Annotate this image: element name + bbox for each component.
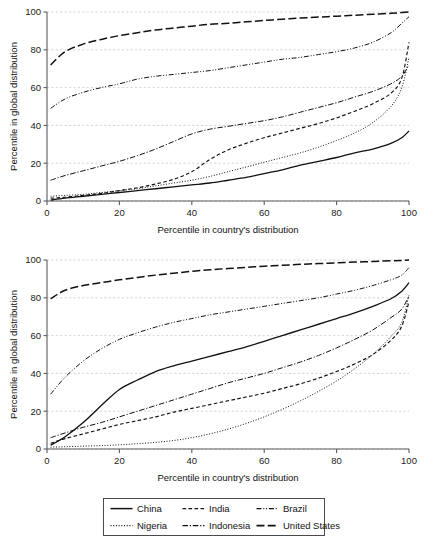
x-tick-label-0: 0 xyxy=(44,455,49,466)
y-tick-label-40: 40 xyxy=(30,120,41,131)
y-tick-label-0: 0 xyxy=(36,195,41,206)
series-line-india xyxy=(51,42,409,198)
y-tick-label-20: 20 xyxy=(30,158,41,169)
series-line-brazil xyxy=(51,268,409,395)
x-tick-label-100: 100 xyxy=(401,455,417,466)
legend-grid: ChinaIndiaBrazilNigeriaIndonesiaUnited S… xyxy=(104,499,324,535)
x-axis-title: Percentile in country's distribution xyxy=(157,472,298,483)
legend-item-indonesia[interactable]: Indonesia xyxy=(182,521,256,531)
chart-svg-top: 020406080100020406080100Percentile in co… xyxy=(0,0,424,248)
x-axis-title: Percentile in country's distribution xyxy=(157,224,298,235)
legend: ChinaIndiaBrazilNigeriaIndonesiaUnited S… xyxy=(0,496,424,547)
legend-label: China xyxy=(137,504,162,514)
y-tick-label-80: 80 xyxy=(30,44,41,55)
legend-label: Indonesia xyxy=(209,521,250,531)
legend-box: ChinaIndiaBrazilNigeriaIndonesiaUnited S… xyxy=(103,498,325,536)
legend-item-nigeria[interactable]: Nigeria xyxy=(110,521,182,531)
y-tick-label-40: 40 xyxy=(30,368,41,379)
legend-label: United States xyxy=(283,521,340,531)
y-tick-label-100: 100 xyxy=(25,254,41,265)
chart-svg-bottom: 020406080100020406080100Percentile in co… xyxy=(0,248,424,496)
y-tick-label-80: 80 xyxy=(30,292,41,303)
y-axis-title: Percentile in global distribution xyxy=(8,42,19,171)
legend-swatch-solid-icon xyxy=(110,504,133,513)
series-line-nigeria xyxy=(51,57,409,196)
x-tick-label-0: 0 xyxy=(44,207,49,218)
x-tick-label-40: 40 xyxy=(187,455,198,466)
legend-item-india[interactable]: India xyxy=(182,504,256,514)
series-line-indonesia xyxy=(51,296,409,438)
y-tick-label-60: 60 xyxy=(30,330,41,341)
legend-swatch-long-dash-icon xyxy=(256,521,279,530)
x-tick-label-60: 60 xyxy=(259,207,270,218)
chart-panel-bottom: 020406080100020406080100Percentile in co… xyxy=(0,248,424,496)
y-tick-label-0: 0 xyxy=(36,443,41,454)
legend-label: India xyxy=(209,504,230,514)
legend-item-china[interactable]: China xyxy=(110,504,182,514)
series-line-nigeria xyxy=(51,295,409,447)
legend-swatch-dashed-short-icon xyxy=(182,504,205,513)
figure-root: 020406080100020406080100Percentile in co… xyxy=(0,0,424,547)
legend-swatch-dash-dot-icon xyxy=(182,521,205,530)
y-tick-label-100: 100 xyxy=(25,6,41,17)
series-line-united-states xyxy=(51,12,409,65)
legend-swatch-dotted-icon xyxy=(110,521,133,530)
legend-item-brazil[interactable]: Brazil xyxy=(256,504,332,514)
x-tick-label-100: 100 xyxy=(401,207,417,218)
legend-label: Brazil xyxy=(283,504,307,514)
y-tick-label-20: 20 xyxy=(30,406,41,417)
y-tick-label-60: 60 xyxy=(30,82,41,93)
series-line-united-states xyxy=(51,260,409,299)
x-tick-label-20: 20 xyxy=(114,207,125,218)
x-tick-label-80: 80 xyxy=(331,455,342,466)
chart-panel-top: 020406080100020406080100Percentile in co… xyxy=(0,0,424,248)
x-tick-label-20: 20 xyxy=(114,455,125,466)
x-tick-label-60: 60 xyxy=(259,455,270,466)
legend-item-united-states[interactable]: United States xyxy=(256,521,332,531)
x-tick-label-40: 40 xyxy=(187,207,198,218)
legend-label: Nigeria xyxy=(137,521,167,531)
series-line-brazil xyxy=(51,17,409,109)
y-axis-title: Percentile in global distribution xyxy=(8,290,19,419)
legend-swatch-dash-dot-dot-icon xyxy=(256,504,279,513)
x-tick-label-80: 80 xyxy=(331,207,342,218)
